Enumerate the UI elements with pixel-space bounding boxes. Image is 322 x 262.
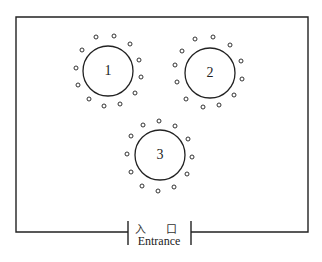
- chair: [141, 123, 145, 127]
- chair: [80, 48, 84, 52]
- room-walls: [16, 17, 308, 245]
- chair: [129, 134, 133, 138]
- table-number-label: 3: [157, 147, 164, 163]
- chair: [186, 137, 190, 141]
- chair: [129, 170, 133, 174]
- chair: [240, 77, 244, 81]
- chair: [139, 75, 143, 79]
- chair: [137, 58, 141, 62]
- chair: [156, 189, 160, 193]
- entrance-label: Entrance: [138, 234, 181, 249]
- chair: [232, 93, 236, 97]
- wall-left: [16, 17, 308, 232]
- chair: [128, 42, 132, 46]
- chair: [190, 155, 194, 159]
- chair: [201, 105, 205, 109]
- chair: [184, 97, 188, 101]
- chair: [140, 184, 144, 188]
- chair: [173, 63, 177, 67]
- chair: [217, 103, 221, 107]
- chair: [94, 35, 98, 39]
- chair: [173, 124, 177, 128]
- chair: [172, 185, 176, 189]
- chair: [239, 59, 243, 63]
- chair: [228, 43, 232, 47]
- chair: [175, 80, 179, 84]
- chair: [193, 37, 197, 41]
- chair: [185, 172, 189, 176]
- table-number-label: 2: [207, 65, 214, 81]
- chair: [112, 34, 116, 38]
- chair: [133, 91, 137, 95]
- chair: [211, 35, 215, 39]
- chair: [180, 49, 184, 53]
- chair: [76, 83, 80, 87]
- chair: [125, 152, 129, 156]
- chair: [87, 97, 91, 101]
- table-number-label: 1: [105, 63, 112, 79]
- chair: [74, 66, 78, 70]
- chair: [102, 104, 106, 108]
- chair: [118, 102, 122, 106]
- chair: [157, 119, 161, 123]
- tables: [74, 34, 244, 193]
